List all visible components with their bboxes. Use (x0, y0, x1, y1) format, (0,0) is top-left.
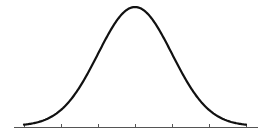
bell-curve (24, 7, 246, 125)
normal-distribution-chart (0, 0, 272, 139)
x-axis-ticks (25, 124, 247, 128)
